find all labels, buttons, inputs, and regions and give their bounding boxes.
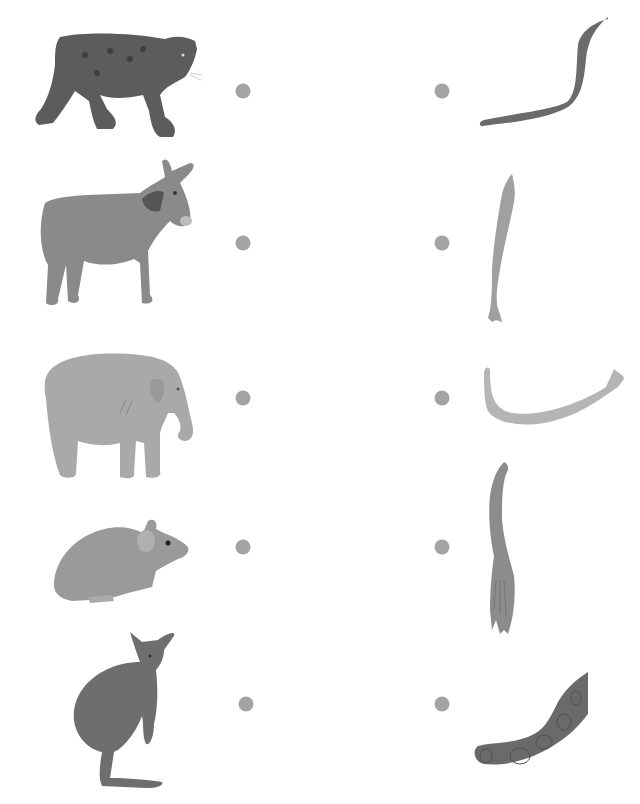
donkey-icon: [30, 155, 200, 310]
kangaroo-tail-icon: [472, 670, 592, 770]
elephant-tail-icon: [482, 365, 627, 427]
donkey-tail-icon: [480, 172, 520, 327]
elephant-icon: [40, 343, 200, 483]
mouse-tail-dot[interactable]: [435, 540, 450, 555]
donkey-dot[interactable]: [236, 236, 251, 251]
kangaroo-icon: [70, 628, 180, 793]
elephant-tail-dot[interactable]: [435, 391, 450, 406]
elephant-dot[interactable]: [236, 391, 251, 406]
kangaroo-dot[interactable]: [239, 697, 254, 712]
jaguar-icon: [25, 25, 200, 145]
jaguar-dot[interactable]: [236, 84, 251, 99]
jaguar-tail-icon: [478, 15, 608, 130]
mouse-dot[interactable]: [236, 540, 251, 555]
kangaroo-tail-dot[interactable]: [435, 697, 450, 712]
jaguar-tail-dot[interactable]: [435, 84, 450, 99]
donkey-tail-dot[interactable]: [435, 236, 450, 251]
mouse-tail-icon: [482, 460, 522, 636]
mouse-icon: [48, 515, 193, 605]
